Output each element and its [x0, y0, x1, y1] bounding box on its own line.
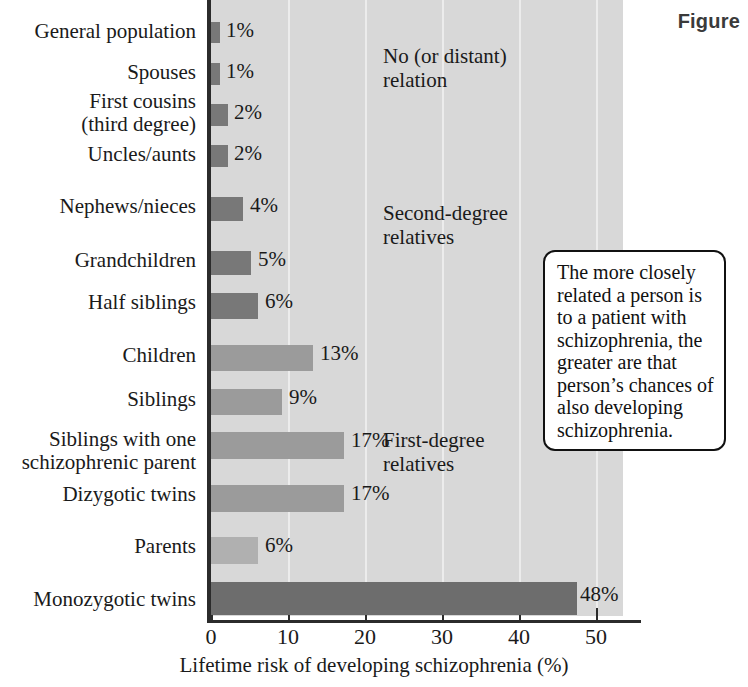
category-label-siblings-one-parent: Siblings with one schizophrenic parent: [0, 428, 196, 474]
group-annotation-first-degree: First-degree relatives: [383, 428, 484, 476]
category-label-uncles-aunts: Uncles/aunts: [0, 143, 196, 166]
category-label-grandchildren: Grandchildren: [0, 249, 196, 272]
x-ticklabel-20: 20: [335, 624, 395, 650]
x-axis-line: [207, 620, 641, 623]
bar-siblings-one-parent: [211, 432, 344, 459]
bar-monozygotic-twins: [211, 582, 577, 615]
category-label-spouses: Spouses: [0, 61, 196, 84]
category-label-parents: Parents: [0, 535, 196, 558]
gridline-20: [365, 0, 367, 616]
bar-nephews-nieces: [211, 197, 243, 221]
bar-dizygotic-twins: [211, 485, 344, 512]
bar-value-children: 13%: [320, 341, 359, 366]
category-label-monozygotic-twins: Monozygotic twins: [0, 588, 196, 611]
x-ticklabel-10: 10: [258, 624, 318, 650]
category-label-half-siblings: Half siblings: [0, 291, 196, 314]
category-label-first-cousins: First cousins (third degree): [0, 90, 196, 136]
category-label-nephews-nieces: Nephews/nieces: [0, 195, 196, 218]
category-label-dizygotic-twins: Dizygotic twins: [0, 483, 196, 506]
bar-value-half-siblings: 6%: [265, 289, 293, 314]
bar-grandchildren: [211, 251, 251, 275]
bar-value-uncles-aunts: 2%: [234, 141, 262, 166]
figure-root: Figure 0 10 20 30 40 50 Lifetime risk of…: [0, 0, 748, 687]
bar-general-population: [211, 22, 220, 43]
bar-value-monozygotic-twins: 48%: [580, 582, 619, 607]
bar-value-nephews-nieces: 4%: [250, 193, 278, 218]
bar-value-siblings: 9%: [289, 385, 317, 410]
bar-value-dizygotic-twins: 17%: [351, 481, 390, 506]
bar-siblings: [211, 389, 282, 415]
x-tick-50: [596, 608, 598, 621]
bar-value-first-cousins: 2%: [234, 100, 262, 125]
x-ticklabel-30: 30: [412, 624, 472, 650]
bar-value-parents: 6%: [265, 533, 293, 558]
bar-value-grandchildren: 5%: [258, 247, 286, 272]
group-annotation-no-relation: No (or distant) relation: [383, 44, 507, 92]
figure-tag: Figure: [678, 10, 740, 33]
bar-children: [211, 345, 313, 371]
x-axis-title: Lifetime risk of developing schizophreni…: [0, 653, 748, 678]
category-label-general-population: General population: [0, 20, 196, 43]
x-ticklabel-0: 0: [181, 624, 241, 650]
bar-uncles-aunts: [211, 145, 228, 167]
category-label-children: Children: [0, 344, 196, 367]
bar-value-general-population: 1%: [226, 18, 254, 43]
gridline-30: [442, 0, 444, 616]
gridline-40: [519, 0, 521, 616]
bar-spouses: [211, 63, 220, 85]
bar-value-spouses: 1%: [226, 59, 254, 84]
category-label-siblings: Siblings: [0, 388, 196, 411]
bar-parents: [211, 537, 258, 564]
callout-box: The more closely related a person is to …: [543, 250, 726, 451]
x-ticklabel-50: 50: [566, 624, 626, 650]
bar-first-cousins: [211, 104, 228, 126]
group-annotation-second-degree: Second-degree relatives: [383, 201, 508, 249]
x-ticklabel-40: 40: [489, 624, 549, 650]
bar-half-siblings: [211, 293, 258, 319]
